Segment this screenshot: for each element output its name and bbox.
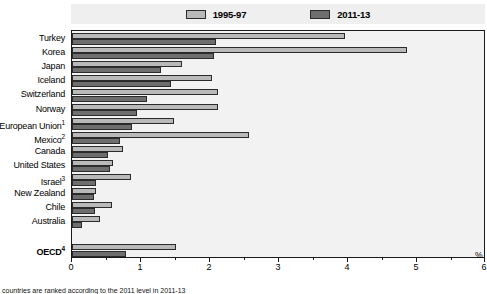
bar-group [72, 188, 486, 202]
bar-new [72, 53, 214, 59]
bar-old [72, 202, 112, 208]
bar-new [72, 251, 126, 257]
axis-tick-minor [106, 258, 107, 260]
bar-old [72, 104, 218, 110]
bar-new [72, 39, 216, 45]
legend-label-2011-13: 2011-13 [337, 9, 370, 20]
axis-tick-minor [244, 258, 245, 260]
category-label: Canada [35, 146, 65, 156]
bar-new [72, 124, 132, 130]
bar-group [72, 104, 486, 118]
bar-new [72, 67, 161, 73]
bar-old [72, 118, 174, 124]
bar-old [72, 47, 407, 53]
axis-tick-label: 3 [275, 262, 280, 272]
bar-group [72, 61, 486, 75]
bar-old [72, 174, 131, 180]
x-axis-unit: % [475, 250, 483, 260]
category-label: Japan [41, 61, 65, 71]
bar-group [72, 132, 486, 146]
axis-tick-label: 5 [413, 262, 418, 272]
bar-new [72, 96, 147, 102]
axis-tick-label: 4 [344, 262, 349, 272]
axis-tick-minor [382, 258, 383, 260]
category-label: Iceland [37, 75, 65, 85]
bar-old [72, 75, 212, 81]
category-axis-labels: TurkeyKoreaJapanIcelandSwitzerlandNorway… [0, 30, 68, 258]
category-label: Switzerland [21, 89, 65, 99]
bar-old [72, 188, 96, 194]
bar-group [72, 244, 486, 258]
category-label: OECD4 [36, 244, 65, 257]
bar-old [72, 33, 345, 39]
bar-old [72, 61, 182, 67]
category-label: Australia [32, 216, 65, 226]
bar-group [72, 146, 486, 160]
bar-old [72, 132, 249, 138]
bar-old [72, 146, 123, 152]
legend-swatch-1995-97 [186, 10, 206, 19]
category-label: Norway [36, 104, 65, 114]
legend-item-old: 1995-97 [186, 9, 246, 20]
category-label: Chile [45, 202, 65, 212]
bars-container [72, 31, 484, 257]
legend-item-new: 2011-13 [310, 9, 370, 20]
bar-group [72, 89, 486, 103]
bar-old [72, 89, 218, 95]
category-label: New Zealand [14, 188, 65, 198]
legend-swatch-2011-13 [310, 10, 330, 19]
bar-group [72, 160, 486, 174]
category-label: Turkey [39, 33, 65, 43]
bar-new [72, 81, 171, 87]
axis-tick-label: 1 [137, 262, 142, 272]
category-label: Korea [42, 47, 65, 57]
plot-area [71, 30, 485, 258]
bar-group [72, 202, 486, 216]
axis-tick-label: 6 [481, 262, 486, 272]
bar-old [72, 160, 113, 166]
x-axis-labels: 0123456 [0, 262, 486, 276]
category-label: United States [14, 160, 65, 170]
bar-new [72, 222, 82, 228]
bar-new [72, 166, 110, 172]
bar-old [72, 216, 100, 222]
chart-footnote: countries are ranked according to the 20… [2, 286, 486, 294]
axis-tick-label: 2 [206, 262, 211, 272]
bar-new [72, 138, 120, 144]
bar-group [72, 75, 486, 89]
axis-tick-minor [451, 258, 452, 260]
bar-new [72, 180, 96, 186]
axis-tick-label: 0 [68, 262, 73, 272]
axis-tick-minor [175, 258, 176, 260]
legend-label-1995-97: 1995-97 [213, 9, 246, 20]
chart-legend: 1995-97 2011-13 [71, 4, 485, 24]
bar-new [72, 194, 94, 200]
bar-old [72, 244, 176, 250]
bar-group [72, 118, 486, 132]
category-label: Mexico2 [34, 132, 65, 145]
bar-group [72, 33, 486, 47]
bar-new [72, 208, 95, 214]
bar-group [72, 216, 486, 230]
bar-new [72, 110, 137, 116]
category-label: European Union1 [0, 118, 65, 131]
category-label: Israel3 [41, 174, 65, 187]
bar-group [72, 47, 486, 61]
axis-tick-minor [313, 258, 314, 260]
bar-new [72, 152, 108, 158]
bar-group [72, 174, 486, 188]
